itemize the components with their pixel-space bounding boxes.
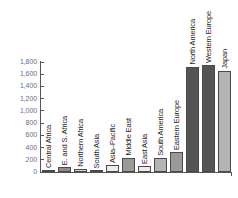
- bar-category-label: Asia–Pacific: [108, 124, 117, 163]
- y-axis-tick-label: 1,800: [20, 57, 40, 67]
- y-axis-tick-label: 0: [33, 167, 40, 177]
- y-axis-tick: 1,000: [20, 106, 40, 116]
- bar-label-wrap: North America: [186, 0, 199, 65]
- y-axis-tick-label: 800: [26, 118, 40, 128]
- bar[interactable]: [106, 165, 119, 172]
- bar-label-wrap: Western Europe: [202, 0, 215, 63]
- y-axis-tick-label: 1,400: [20, 81, 40, 91]
- bar[interactable]: [154, 158, 167, 172]
- bar-category-label: Northern Africa: [76, 119, 85, 167]
- y-axis-tick-label: 1,000: [20, 106, 40, 116]
- y-axis-ticks: 1,8001,6001,4001,2001,0008006004002000: [0, 0, 40, 198]
- bar-label-wrap: South America: [154, 6, 167, 156]
- bar[interactable]: [74, 169, 87, 172]
- bar-chart: 1,8001,6001,4001,2001,0008006004002000 C…: [0, 0, 238, 198]
- y-axis-tick-label: 1,600: [20, 69, 40, 79]
- bar-category-label: Central Africa: [44, 125, 53, 168]
- bar-category-label: East Asia: [140, 134, 149, 164]
- y-axis-tick: 600: [26, 130, 40, 140]
- bar-label-wrap: South Asia: [90, 18, 103, 168]
- y-axis-tick-label: 400: [26, 143, 40, 153]
- y-axis-tick-label: 600: [26, 130, 40, 140]
- y-axis-tick: 1,200: [20, 94, 40, 104]
- bar-category-label: Western Europe: [204, 11, 213, 63]
- bar-series: Central AfricaE. and S. AfricaNorthern A…: [40, 0, 232, 198]
- y-axis-tick: 1,600: [20, 69, 40, 79]
- bar[interactable]: [58, 167, 71, 172]
- bar[interactable]: [42, 170, 55, 172]
- bar-label-wrap: East Asia: [138, 14, 151, 164]
- bar[interactable]: [170, 152, 183, 172]
- bar[interactable]: [138, 166, 151, 172]
- bar-label-wrap: E. and S. Africa: [58, 15, 71, 165]
- bar[interactable]: [186, 67, 199, 172]
- bar-label-wrap: Middle East: [122, 6, 135, 156]
- bar-category-label: North America: [188, 19, 197, 65]
- bar-category-label: South America: [156, 109, 165, 156]
- y-axis-tick: 1,800: [20, 57, 40, 67]
- bar[interactable]: [202, 65, 215, 172]
- y-axis-tick-label: 200: [26, 155, 40, 165]
- bar-label-wrap: Japan: [218, 0, 231, 69]
- bar-label-wrap: Asia–Pacific: [106, 13, 119, 163]
- y-axis-tick: 1,400: [20, 81, 40, 91]
- bar[interactable]: [90, 170, 103, 172]
- bar-category-label: Eastern Europe: [172, 100, 181, 150]
- y-axis-tick: 200: [26, 155, 40, 165]
- y-axis-tick: 800: [26, 118, 40, 128]
- bar-label-wrap: Eastern Europe: [170, 0, 183, 150]
- bar-category-label: South Asia: [92, 134, 101, 168]
- y-axis-tick-label: 1,200: [20, 94, 40, 104]
- bar-label-wrap: Central Africa: [42, 18, 55, 168]
- bar-category-label: E. and S. Africa: [60, 116, 69, 165]
- bar-category-label: Japan: [220, 49, 229, 69]
- bar-category-label: Middle East: [124, 118, 133, 156]
- bar[interactable]: [218, 71, 231, 172]
- y-axis-tick: 0: [33, 167, 40, 177]
- y-axis-tick: 400: [26, 143, 40, 153]
- bar-label-wrap: Northern Africa: [74, 17, 87, 167]
- bar[interactable]: [122, 158, 135, 172]
